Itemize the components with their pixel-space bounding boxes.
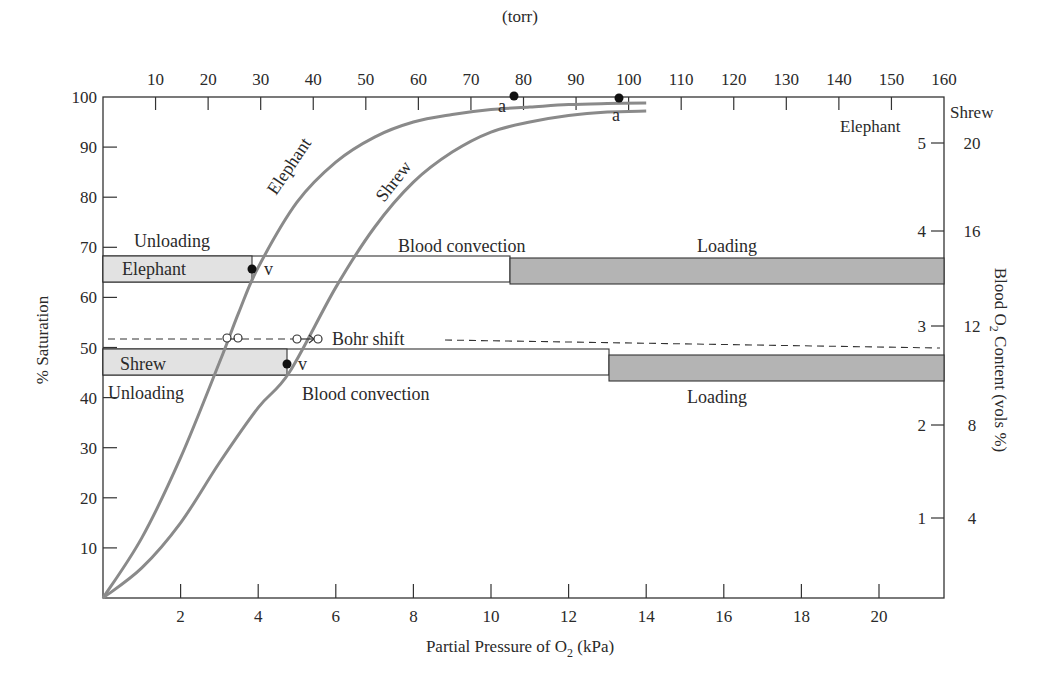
elephant-venous-label: v	[264, 259, 273, 279]
torr-tick-label: 150	[879, 70, 905, 89]
y-tick-label: 70	[80, 238, 97, 257]
torr-tick-label: 100	[616, 70, 642, 89]
torr-tick-label: 20	[200, 70, 217, 89]
y-tick-label: 50	[80, 339, 97, 358]
shrew-content-tick: 12	[964, 317, 981, 336]
y-tick-label: 80	[80, 188, 97, 207]
shrew-transport-bar	[103, 349, 944, 381]
x-tick-label: 10	[483, 607, 500, 626]
torr-tick-label: 130	[774, 70, 800, 89]
elephant-venous-point	[248, 265, 257, 274]
elephant-content-tick: 3	[918, 317, 927, 336]
torr-tick-label: 120	[721, 70, 747, 89]
shrew-bar-label: Shrew	[120, 354, 166, 374]
curve-label-shrew: Shrew	[371, 157, 415, 206]
bohr-shift-text: Bohr shift	[332, 329, 405, 349]
shrew-venous-label: v	[298, 354, 307, 374]
x-tick-label: 8	[409, 607, 418, 626]
torr-tick-label: 70	[462, 70, 479, 89]
elephant-loading-text: Loading	[697, 236, 757, 256]
shrew-convection-text: Blood convection	[302, 384, 429, 404]
bottom-axis-title: Partial Pressure of O2 (kPa)	[426, 637, 614, 660]
torr-tick-label: 80	[515, 70, 532, 89]
torr-tick-label: 40	[305, 70, 322, 89]
right-axis-title: Blood O2 Content (vols %)	[987, 268, 1010, 453]
left-axis-title: % Saturation	[33, 295, 52, 384]
x-tick-label: 2	[176, 607, 185, 626]
x-tick-label: 6	[332, 607, 341, 626]
right-scale-label-elephant: Elephant	[840, 117, 901, 136]
plot-frame	[103, 97, 944, 598]
elephant-loading-segment	[510, 258, 944, 284]
shrew-unloading-text: Unloading	[108, 383, 184, 403]
elephant-content-tick: 5	[918, 134, 927, 153]
torr-tick-label: 60	[410, 70, 427, 89]
y-tick-label: 20	[80, 489, 97, 508]
elephant-convection-text: Blood convection	[398, 236, 525, 256]
shrew-content-tick: 16	[964, 222, 981, 241]
x-tick-label: 16	[715, 607, 732, 626]
torr-tick-label: 140	[826, 70, 852, 89]
y-tick-label: 10	[80, 539, 97, 558]
elephant-transport-bar	[103, 256, 944, 284]
left-axis-ticks: 102030405060708090100	[72, 88, 118, 558]
elephant-arterial-label: a	[498, 96, 506, 116]
y-tick-label: 60	[80, 288, 97, 307]
shrew-loading-segment	[609, 355, 944, 381]
x-tick-label: 4	[254, 607, 263, 626]
elephant-content-tick: 4	[918, 222, 927, 241]
x-tick-label: 12	[560, 607, 577, 626]
elephant-arterial-point	[510, 92, 519, 101]
shrew-content-tick: 20	[964, 134, 981, 153]
bohr-shift-line-right	[445, 340, 940, 348]
y-tick-label: 30	[80, 439, 97, 458]
torr-tick-label: 30	[252, 70, 269, 89]
y-tick-label: 40	[80, 389, 97, 408]
y-tick-label: 100	[72, 88, 98, 107]
bottom-axis-ticks: 2468101214161820	[176, 584, 887, 626]
elephant-bar-label: Elephant	[122, 259, 186, 279]
top-axis-title: (torr)	[502, 7, 538, 26]
oxygen-dissociation-chart: (torr) 102030405060708090100110120130140…	[0, 0, 1044, 698]
right-scale-label-shrew: Shrew	[950, 103, 994, 122]
shrew-loading-text: Loading	[687, 387, 747, 407]
y-tick-label: 90	[80, 138, 97, 157]
x-tick-label: 20	[871, 607, 888, 626]
shrew-content-tick: 4	[968, 509, 977, 528]
elephant-unloading-text: Unloading	[134, 231, 210, 251]
torr-tick-label: 10	[147, 70, 164, 89]
elephant-content-tick: 1	[918, 509, 927, 528]
shrew-venous-point	[283, 360, 292, 369]
elephant-content-tick: 2	[918, 416, 927, 435]
torr-tick-label: 110	[669, 70, 694, 89]
torr-tick-label: 50	[357, 70, 374, 89]
shrew-content-tick: 8	[968, 416, 977, 435]
x-tick-label: 18	[793, 607, 810, 626]
shrew-arterial-point	[615, 94, 624, 103]
x-tick-label: 14	[638, 607, 656, 626]
right-axis-ticks: 1428312416520	[918, 134, 981, 528]
shrew-arterial-label: a	[612, 105, 620, 125]
torr-tick-label: 90	[568, 70, 585, 89]
torr-tick-label: 160	[931, 70, 957, 89]
